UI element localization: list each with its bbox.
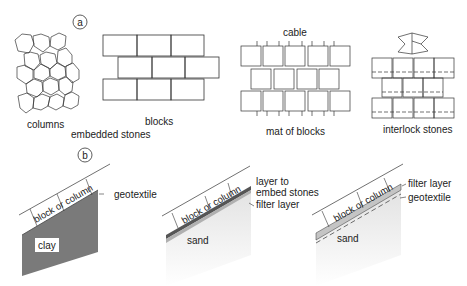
- interlock-stone-chevron: [398, 33, 428, 54]
- clay-label: clay: [38, 240, 56, 251]
- panel-b-marker: b: [78, 148, 92, 162]
- columns-label: columns: [27, 119, 64, 130]
- columns-hexagon-grid: [15, 33, 79, 113]
- geotextile-label-3: geotextile: [408, 192, 451, 203]
- embed-layer-label-line2: embed stones: [256, 187, 319, 198]
- svg-text:b: b: [82, 150, 88, 161]
- geotextile-label-1: geotextile: [114, 189, 157, 200]
- filter-layer-label-2: filter layer: [256, 199, 300, 210]
- interlock-stones-grid: [372, 58, 454, 118]
- embedded-stones-label: embedded stones: [71, 129, 151, 140]
- embed-layer-label-line1: layer to: [256, 176, 289, 187]
- section-sand-embed: block or column sand layer to embed ston…: [162, 166, 319, 286]
- mat-of-blocks: [241, 41, 350, 116]
- sand-label-3: sand: [337, 233, 359, 244]
- filter-layer-label-3: filter layer: [408, 178, 452, 189]
- section-sand-geotextile: block or column sand filter layer geotex…: [312, 164, 452, 286]
- mat-of-blocks-label: mat of blocks: [266, 126, 325, 137]
- panel-a-marker: a: [73, 15, 87, 29]
- blocks-grid: [103, 35, 219, 100]
- section-clay: block or column clay geotextile: [19, 164, 157, 276]
- sand-label-2: sand: [187, 235, 209, 246]
- cable-label: cable: [283, 27, 307, 38]
- revetment-diagram: a columns blocks: [0, 0, 467, 286]
- interlock-stones-label: interlock stones: [383, 124, 452, 135]
- blocks-label: blocks: [145, 116, 173, 127]
- svg-text:a: a: [77, 17, 83, 28]
